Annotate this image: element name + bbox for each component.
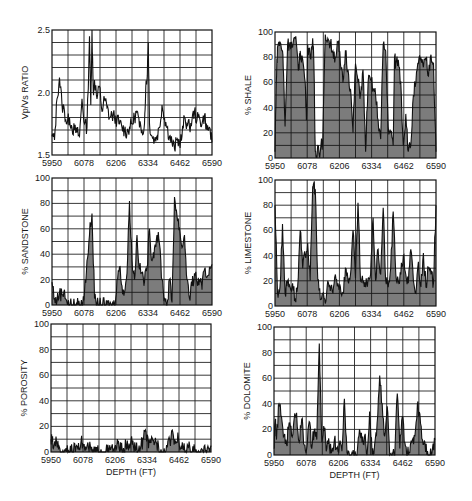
y-tick-label: 60 bbox=[263, 225, 273, 235]
x-tick-label: 6078 bbox=[74, 158, 94, 168]
x-tick-label: 6334 bbox=[361, 458, 381, 468]
panel-bottom-left: 020406080100595060786206633464626590% PO… bbox=[19, 319, 221, 477]
x-tick-label: 6078 bbox=[296, 458, 316, 468]
x-tick-label: 6462 bbox=[394, 309, 414, 319]
x-tick-label: 6462 bbox=[170, 158, 190, 168]
x-tick-label: 5950 bbox=[42, 158, 62, 168]
y-tick-label: 80 bbox=[263, 200, 273, 210]
x-tick-label: 6462 bbox=[393, 458, 413, 468]
y-axis-label: Vp/Vs RATIO bbox=[20, 66, 30, 119]
x-tick-label: 6590 bbox=[202, 308, 222, 318]
y-tick-label: 60 bbox=[263, 77, 273, 87]
y-tick-label: 20 bbox=[263, 128, 273, 138]
y-tick-label: 100 bbox=[258, 27, 273, 37]
y-axis-label: % DOLOMITE bbox=[242, 362, 252, 420]
x-tick-label: 5950 bbox=[265, 161, 285, 171]
panel-middle-right: 020406080100595060786206633464626590% LI… bbox=[243, 175, 446, 319]
x-tick-label: 6590 bbox=[201, 455, 221, 465]
grid-lines bbox=[51, 324, 211, 452]
x-tick-label: 6334 bbox=[137, 455, 157, 465]
x-tick-label: 6334 bbox=[362, 161, 382, 171]
grid-lines bbox=[52, 30, 212, 155]
y-tick-label: 80 bbox=[39, 345, 49, 355]
x-tick-label: 6206 bbox=[329, 161, 349, 171]
panel-top-left: 1.52.02.5595060786206633464626590Vp/Vs R… bbox=[20, 25, 222, 168]
y-tick-label: 60 bbox=[39, 370, 49, 380]
x-tick-label: 6590 bbox=[426, 161, 446, 171]
y-axis-label: % POROSITY bbox=[19, 359, 29, 416]
y-tick-label: 80 bbox=[263, 52, 273, 62]
x-tick-label: 6206 bbox=[328, 458, 348, 468]
x-tick-label: 6334 bbox=[362, 309, 382, 319]
x-axis-label: DEPTH (FT) bbox=[330, 470, 380, 480]
x-tick-label: 5950 bbox=[42, 308, 62, 318]
panel-bottom-right: 020406080100595060786206633464626590% DO… bbox=[242, 322, 445, 480]
y-tick-label: 20 bbox=[40, 275, 50, 285]
x-tick-label: 6206 bbox=[329, 309, 349, 319]
x-tick-label: 6206 bbox=[105, 455, 125, 465]
y-axis-label: % SANDSTONE bbox=[20, 208, 30, 274]
y-axis-label: % LIMESTONE bbox=[243, 212, 253, 274]
panel-middle-left: 020406080100595060786206633464626590% SA… bbox=[20, 173, 222, 318]
y-tick-label: 20 bbox=[262, 424, 272, 434]
x-tick-label: 6078 bbox=[297, 161, 317, 171]
x-tick-label: 6078 bbox=[297, 309, 317, 319]
y-tick-label: 20 bbox=[39, 421, 49, 431]
x-tick-label: 6590 bbox=[426, 309, 446, 319]
y-tick-label: 40 bbox=[263, 103, 273, 113]
x-axis-label: DEPTH (FT) bbox=[106, 467, 156, 477]
x-tick-label: 6462 bbox=[394, 161, 414, 171]
y-tick-label: 40 bbox=[39, 396, 49, 406]
y-tick-label: 80 bbox=[40, 198, 50, 208]
lithology-log-figure: 1.52.02.5595060786206633464626590Vp/Vs R… bbox=[0, 0, 472, 501]
y-tick-label: 40 bbox=[262, 399, 272, 409]
figure-canvas: 1.52.02.5595060786206633464626590Vp/Vs R… bbox=[0, 0, 472, 501]
x-tick-label: 6590 bbox=[202, 158, 222, 168]
x-tick-label: 6334 bbox=[138, 158, 158, 168]
x-tick-label: 6462 bbox=[169, 455, 189, 465]
y-tick-label: 60 bbox=[40, 224, 50, 234]
x-tick-label: 6462 bbox=[170, 308, 190, 318]
x-tick-label: 6334 bbox=[138, 308, 158, 318]
x-tick-label: 6206 bbox=[106, 158, 126, 168]
y-tick-label: 100 bbox=[35, 173, 50, 183]
x-tick-label: 6078 bbox=[73, 455, 93, 465]
y-tick-label: 100 bbox=[258, 175, 273, 185]
y-tick-label: 2.5 bbox=[37, 25, 50, 35]
y-tick-label: 2.0 bbox=[37, 88, 50, 98]
y-tick-label: 80 bbox=[262, 348, 272, 358]
y-tick-label: 100 bbox=[34, 319, 49, 329]
y-axis-label: % SHALE bbox=[243, 75, 253, 115]
panel-top-right: 020406080100595060786206633464626590% SH… bbox=[243, 27, 446, 171]
x-tick-label: 6078 bbox=[74, 308, 94, 318]
x-tick-label: 5950 bbox=[41, 455, 61, 465]
x-tick-label: 5950 bbox=[265, 309, 285, 319]
y-tick-label: 20 bbox=[263, 276, 273, 286]
x-tick-label: 5950 bbox=[264, 458, 284, 468]
x-tick-label: 6206 bbox=[106, 308, 126, 318]
y-tick-label: 40 bbox=[263, 251, 273, 261]
x-tick-label: 6590 bbox=[425, 458, 445, 468]
y-tick-label: 100 bbox=[257, 322, 272, 332]
y-tick-label: 60 bbox=[262, 373, 272, 383]
y-tick-label: 40 bbox=[40, 249, 50, 259]
